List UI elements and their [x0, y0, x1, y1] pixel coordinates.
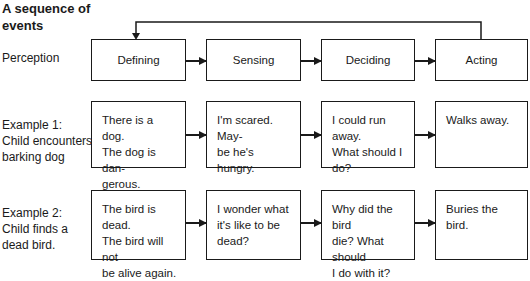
- arrow-icon: [301, 60, 321, 62]
- text-line: The bird will not: [102, 233, 177, 265]
- text-line: Walks away.: [446, 112, 519, 128]
- text-line: What should I: [332, 144, 406, 160]
- arrow-icon: [415, 134, 435, 136]
- arrow-icon: [186, 134, 206, 136]
- text-line: do?: [332, 160, 406, 176]
- text-line: Why did the bird: [332, 201, 406, 233]
- text-line: it's like to be: [217, 217, 292, 233]
- label-line: dead bird.: [2, 237, 68, 253]
- text-line: The dog is dan-: [102, 144, 177, 176]
- text-line: dead?: [217, 233, 292, 249]
- stage-box-acting: Acting: [435, 39, 528, 81]
- text-line: be alive again.: [102, 265, 177, 281]
- example1-sensing-box: I'm scared. May- be he's hungry.: [206, 101, 301, 168]
- text-line: There is a dog.: [102, 112, 177, 144]
- example1-acting-box: Walks away.: [435, 101, 528, 168]
- text-line: die? What should: [332, 233, 406, 265]
- label-line: Child finds a: [2, 221, 68, 237]
- example2-deciding-box: Why did the bird die? What should I do w…: [321, 190, 415, 260]
- example1-defining-box: There is a dog. The dog is dan- gerous.: [91, 101, 186, 168]
- text-line: Buries the bird.: [446, 201, 519, 233]
- example2-defining-box: The bird is dead. The bird will not be a…: [91, 190, 186, 260]
- text-line: I could run away.: [332, 112, 406, 144]
- row-label-example-2: Example 2: Child finds a dead bird.: [2, 205, 68, 253]
- text-line: I do with it?: [332, 265, 406, 281]
- example1-deciding-box: I could run away. What should I do?: [321, 101, 415, 168]
- stage-box-defining: Defining: [91, 39, 186, 81]
- row-label-example-1: Example 1: Child encounters barking dog: [2, 117, 92, 165]
- arrow-icon: [186, 222, 206, 224]
- label-line: Example 2:: [2, 205, 68, 221]
- stage-label: Acting: [466, 52, 498, 68]
- stage-box-deciding: Deciding: [321, 39, 415, 81]
- text-line: I wonder what: [217, 201, 292, 217]
- row-label-perception: Perception: [2, 50, 59, 66]
- stage-label: Deciding: [346, 52, 391, 68]
- arrow-icon: [301, 134, 321, 136]
- label-line: Example 1:: [2, 117, 92, 133]
- arrow-icon: [415, 60, 435, 62]
- stage-label: Sensing: [233, 52, 275, 68]
- text-line: I'm scared. May-: [217, 112, 292, 144]
- text-line: be he's hungry.: [217, 144, 292, 176]
- example2-sensing-box: I wonder what it's like to be dead?: [206, 190, 301, 260]
- label-line: barking dog: [2, 149, 92, 165]
- stage-box-sensing: Sensing: [206, 39, 301, 81]
- text-line: The bird is dead.: [102, 201, 177, 233]
- arrow-icon: [415, 222, 435, 224]
- stage-label: Defining: [117, 52, 159, 68]
- example2-acting-box: Buries the bird.: [435, 190, 528, 260]
- label-line: Child encounters: [2, 133, 92, 149]
- arrow-icon: [301, 222, 321, 224]
- arrow-icon: [186, 60, 206, 62]
